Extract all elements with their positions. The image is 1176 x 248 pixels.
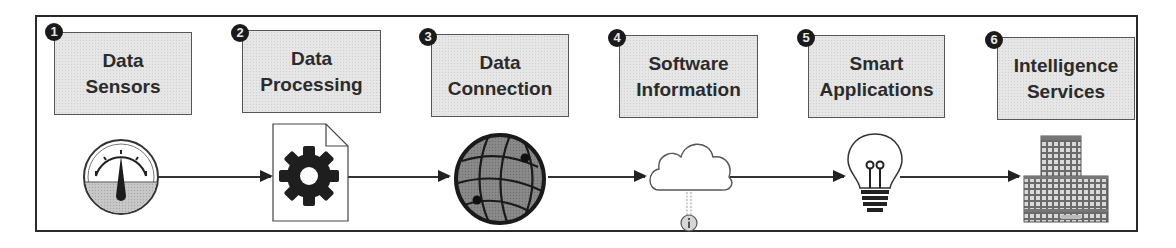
connector-arrow-1-2 (158, 176, 271, 178)
stage-label: Smart Applications (819, 51, 933, 103)
connector-arrow-2-3 (348, 176, 449, 178)
stage-box-data-sensors: Data Sensors (54, 32, 192, 115)
stage-box-smart-applications: Smart Applications (808, 35, 945, 118)
step-badge-4: 4 (608, 29, 626, 47)
globe-network-icon (452, 131, 548, 227)
stage-label: Software Information (636, 51, 741, 103)
stage-label: Data Processing (260, 46, 362, 98)
step-badge-2: 2 (231, 24, 249, 42)
step-badge-5: 5 (797, 29, 815, 47)
diagram-frame (35, 15, 1138, 232)
stage-label: Intelligence Services (1014, 53, 1119, 105)
lightbulb-icon (846, 132, 904, 218)
step-badge-6: 6 (985, 31, 1003, 49)
gauge-icon (82, 138, 160, 216)
cloud-info-icon (645, 135, 733, 233)
stage-label: Data Sensors (86, 48, 161, 100)
gear-document-icon (272, 123, 350, 223)
stage-box-intelligence-services: Intelligence Services (997, 37, 1135, 120)
step-badge-3: 3 (419, 28, 437, 46)
buildings-icon (1023, 135, 1109, 223)
connector-arrow-4-5 (730, 176, 844, 178)
stage-box-software-information: Software Information (619, 35, 758, 118)
connector-arrow-5-6 (900, 176, 1019, 178)
step-badge-1: 1 (45, 23, 63, 41)
stage-label: Data Connection (448, 50, 553, 102)
stage-box-data-connection: Data Connection (431, 34, 569, 117)
connector-arrow-3-4 (548, 176, 645, 178)
stage-box-data-processing: Data Processing (242, 30, 381, 113)
